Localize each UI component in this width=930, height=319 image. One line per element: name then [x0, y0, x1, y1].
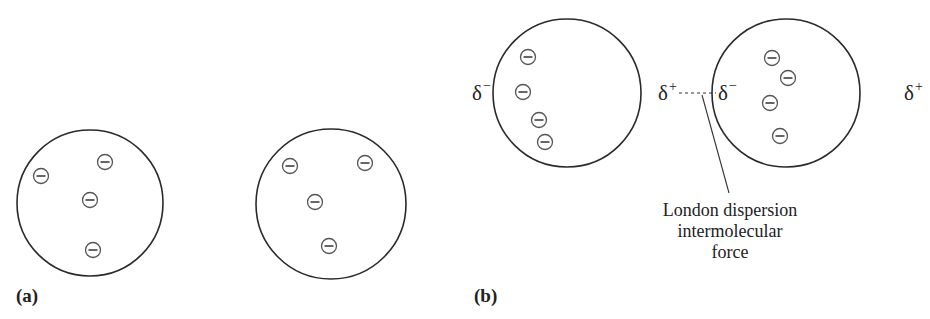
electron-icon — [322, 239, 337, 254]
charge-left-atom-right: δ + — [658, 79, 677, 105]
atom-b2 — [712, 19, 860, 167]
charge-left-atom-left: δ − — [472, 78, 491, 105]
electron-icon — [532, 113, 547, 128]
atom-boundary-circle — [712, 19, 860, 167]
electron-icon — [538, 135, 553, 150]
panel-b-label: (b) — [474, 285, 497, 307]
annotation-line-3: force — [712, 242, 749, 262]
electron-icon — [34, 169, 49, 184]
diagram-canvas: (a) δ − δ + δ − δ + London dispersion in… — [0, 0, 930, 319]
panel-b: δ − δ + δ − δ + London dispersion interm… — [472, 19, 923, 307]
charge-sign: + — [669, 79, 677, 94]
electron-icon — [765, 51, 780, 66]
electron-icon — [781, 71, 796, 86]
panel-a-label: (a) — [16, 285, 38, 307]
panel-a: (a) — [16, 129, 406, 307]
charge-right-atom-right: δ + — [904, 79, 923, 105]
electron-icon — [521, 50, 536, 65]
electron-icon — [763, 96, 778, 111]
electron-icon — [516, 85, 531, 100]
london-dispersion-annotation: London dispersion intermolecular force — [663, 200, 798, 262]
atom-b1 — [493, 19, 641, 167]
delta-symbol: δ — [718, 81, 728, 105]
charge-sign: − — [483, 78, 491, 93]
charge-sign: − — [729, 78, 737, 93]
charge-right-atom-left: δ − — [718, 78, 737, 105]
delta-symbol: δ — [472, 81, 482, 105]
annotation-leader-line — [702, 95, 729, 193]
delta-symbol: δ — [658, 81, 668, 105]
electron-icon — [83, 193, 98, 208]
atom-boundary-circle — [256, 129, 406, 279]
electron-icon — [86, 243, 101, 258]
annotation-line-1: London dispersion — [663, 200, 798, 220]
electron-icon — [773, 129, 788, 144]
electron-icon — [283, 159, 298, 174]
atom-a1 — [17, 130, 163, 276]
delta-symbol: δ — [904, 81, 914, 105]
electron-icon — [358, 156, 373, 171]
charge-sign: + — [915, 79, 923, 94]
electron-icon — [98, 155, 113, 170]
atom-a2 — [256, 129, 406, 279]
annotation-line-2: intermolecular — [678, 221, 783, 241]
electron-icon — [308, 195, 323, 210]
